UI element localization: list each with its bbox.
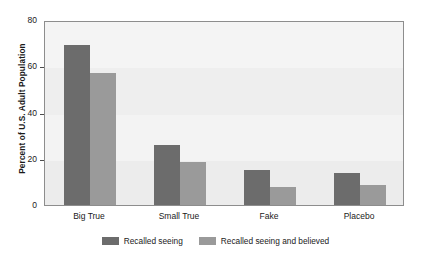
legend: Recalled seeingRecalled seeing and belie… (0, 236, 431, 246)
bars-layer (45, 22, 403, 205)
legend-item: Recalled seeing and believed (199, 236, 329, 246)
legend-label: Recalled seeing (124, 236, 183, 246)
legend-label: Recalled seeing and believed (221, 236, 329, 246)
y-tick-mark (40, 114, 44, 115)
bar-chart: Percent of U.S. Adult Population 0204060… (0, 0, 431, 256)
legend-swatch (199, 237, 216, 245)
y-tick-mark (40, 67, 44, 68)
bar (244, 170, 270, 205)
x-tick-label: Fake (260, 211, 279, 221)
bar (270, 187, 296, 206)
x-tick-label: Big True (73, 211, 105, 221)
y-tick-label: 20 (28, 154, 37, 164)
x-tick-label: Small True (159, 211, 200, 221)
bar (334, 173, 360, 205)
plot-area (44, 21, 404, 206)
bar (360, 185, 386, 205)
y-tick-mark (40, 160, 44, 161)
y-tick-label: 40 (28, 108, 37, 118)
y-tick-label: 60 (28, 61, 37, 71)
bar (64, 45, 90, 205)
legend-item: Recalled seeing (102, 236, 183, 246)
x-tick-label: Placebo (344, 211, 375, 221)
legend-swatch (102, 237, 119, 245)
y-tick-label: 80 (28, 15, 37, 25)
y-axis-title: Percent of U.S. Adult Population (18, 9, 27, 209)
y-tick-label: 0 (32, 200, 37, 210)
bar (90, 73, 116, 205)
bar (180, 162, 206, 205)
bar (154, 145, 180, 205)
